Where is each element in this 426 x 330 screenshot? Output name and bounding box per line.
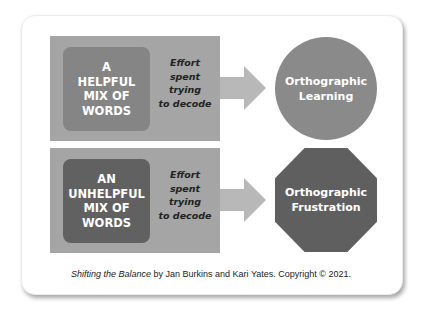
arrow-right-icon <box>220 66 266 110</box>
effort-line: spent <box>153 70 217 84</box>
orthographic-learning-circle: Orthographic Learning <box>275 37 377 140</box>
unhelpful-mix-box: AN UNHELPFUL MIX OF WORDS <box>63 159 150 243</box>
arrow-right-icon <box>220 178 266 222</box>
helpful-line-4: WORDS <box>82 104 131 119</box>
outcome-line: Orthographic <box>285 185 367 200</box>
helpful-mix-box: A HELPFUL MIX OF WORDS <box>63 47 150 131</box>
outcome-line: Learning <box>299 89 354 104</box>
helpful-panel: A HELPFUL MIX OF WORDS Effort spent tryi… <box>50 36 220 141</box>
effort-line: spent <box>153 182 217 196</box>
effort-text-bottom: Effort spent trying to decode <box>153 168 217 222</box>
unhelpful-line-2: UNHELPFUL <box>68 187 145 202</box>
caption-credit: by Jan Burkins and Kari Yates. Copyright… <box>151 269 351 279</box>
unhelpful-panel: AN UNHELPFUL MIX OF WORDS Effort spent t… <box>50 148 220 253</box>
unhelpful-line-1: AN <box>97 172 116 187</box>
unhelpful-line-4: WORDS <box>82 216 131 231</box>
helpful-line-3: MIX OF <box>83 89 129 104</box>
effort-text-top: Effort spent trying to decode <box>153 56 217 110</box>
effort-line: to decode <box>153 97 217 111</box>
outcome-line: Frustration <box>291 200 360 215</box>
caption-book-title: Shifting the Balance <box>71 269 151 279</box>
effort-line: Effort <box>153 168 217 182</box>
effort-line: Effort <box>153 56 217 70</box>
unhelpful-line-3: MIX OF <box>83 201 129 216</box>
outcome-line: Orthographic <box>285 74 367 89</box>
effort-line: to decode <box>153 209 217 223</box>
effort-line: trying <box>153 83 217 97</box>
helpful-line-2: HELPFUL <box>78 75 136 90</box>
orthographic-frustration-octagon: Orthographic Frustration <box>275 148 377 252</box>
effort-line: trying <box>153 195 217 209</box>
helpful-line-1: A <box>102 60 111 75</box>
figure-caption: Shifting the Balance by Jan Burkins and … <box>21 269 401 279</box>
